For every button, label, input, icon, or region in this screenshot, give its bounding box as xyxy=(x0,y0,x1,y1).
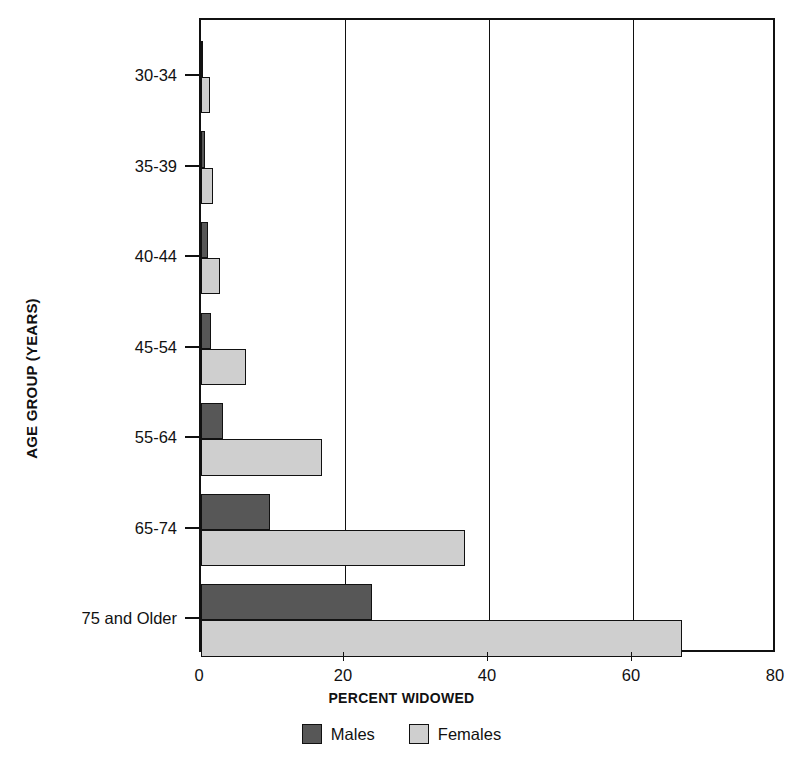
y-tick-mark-45-54 xyxy=(185,346,199,348)
y-tick-label-45-54: 45-54 xyxy=(0,337,177,356)
legend-item-males: Males xyxy=(302,724,375,744)
y-tick-label-35-39: 35-39 xyxy=(0,156,177,175)
y-tick-mark-55-64 xyxy=(185,436,199,438)
bar-females-65-74 xyxy=(201,530,465,566)
gridline-40 xyxy=(489,20,490,650)
bar-females-30-34 xyxy=(201,77,210,113)
y-tick-mark-75-and-older xyxy=(185,617,199,619)
bar-males-75-and-older xyxy=(201,584,372,620)
x-tick-mark-40 xyxy=(487,652,488,661)
x-tick-label-0: 0 xyxy=(194,666,203,685)
legend-label-males: Males xyxy=(331,725,375,744)
x-tick-label-20: 20 xyxy=(334,666,352,685)
x-tick-mark-60 xyxy=(631,652,632,661)
chart-figure: AGE GROUP (YEARS) 30-3435-3940-4445-5455… xyxy=(0,0,803,777)
chart-legend: MalesFemales xyxy=(0,724,803,744)
bar-females-40-44 xyxy=(201,258,220,294)
bar-females-75-and-older xyxy=(201,620,682,656)
plot-area xyxy=(199,18,775,652)
gridline-60 xyxy=(633,20,634,650)
bar-males-45-54 xyxy=(201,313,211,349)
y-tick-mark-65-74 xyxy=(185,527,199,529)
legend-swatch-males xyxy=(302,724,322,744)
bar-females-35-39 xyxy=(201,168,213,204)
y-tick-mark-35-39 xyxy=(185,165,199,167)
legend-item-females: Females xyxy=(409,724,501,744)
x-tick-label-40: 40 xyxy=(478,666,496,685)
y-tick-label-40-44: 40-44 xyxy=(0,247,177,266)
y-tick-mark-30-34 xyxy=(185,74,199,76)
y-tick-label-65-74: 65-74 xyxy=(0,518,177,537)
x-axis-title: PERCENT WIDOWED xyxy=(0,690,803,706)
legend-swatch-females xyxy=(409,724,429,744)
bar-females-45-54 xyxy=(201,349,246,385)
y-tick-label-75-and-older: 75 and Older xyxy=(0,609,177,628)
bar-females-55-64 xyxy=(201,439,322,475)
x-tick-label-80: 80 xyxy=(766,666,784,685)
y-tick-mark-40-44 xyxy=(185,255,199,257)
legend-label-females: Females xyxy=(438,725,501,744)
bar-males-65-74 xyxy=(201,494,270,530)
x-tick-label-60: 60 xyxy=(622,666,640,685)
x-tick-mark-20 xyxy=(343,652,344,661)
bar-males-40-44 xyxy=(201,222,208,258)
bar-males-35-39 xyxy=(201,131,205,167)
bar-males-30-34 xyxy=(201,41,203,77)
bar-males-55-64 xyxy=(201,403,223,439)
y-tick-label-30-34: 30-34 xyxy=(0,66,177,85)
y-tick-label-55-64: 55-64 xyxy=(0,428,177,447)
